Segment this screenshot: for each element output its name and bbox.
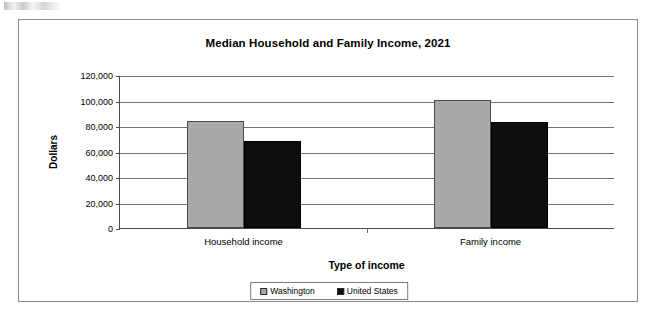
- bar-washington[interactable]: [434, 100, 491, 228]
- legend-item-united-states[interactable]: United States: [337, 286, 398, 296]
- bar-united-states[interactable]: [244, 141, 301, 228]
- plot-wrapper: Dollars 020,00040,00060,00080,000100,000…: [19, 20, 639, 303]
- y-tick-label: 80,000: [85, 122, 113, 132]
- category-label: Family income: [391, 236, 591, 247]
- y-tick-label: 60,000: [85, 148, 113, 158]
- y-tick-label: 100,000: [80, 97, 113, 107]
- y-tick-label: 0: [108, 224, 113, 234]
- y-tick-label: 40,000: [85, 173, 113, 183]
- chart-frame: Median Household and Family Income, 2021…: [18, 19, 638, 302]
- bar-group: Family income: [367, 76, 614, 228]
- x-axis-title: Type of income: [119, 259, 614, 271]
- y-axis-title: Dollars: [48, 135, 59, 169]
- chart-legend: WashingtonUnited States: [250, 282, 408, 300]
- bar-washington[interactable]: [187, 121, 244, 228]
- y-tick-label: 120,000: [80, 71, 113, 81]
- category-tick: [367, 228, 368, 233]
- legend-swatch-icon: [337, 288, 344, 295]
- legend-label: United States: [347, 286, 398, 296]
- legend-item-washington[interactable]: Washington: [260, 286, 315, 296]
- legend-swatch-icon: [260, 288, 267, 295]
- category-label: Household income: [144, 236, 344, 247]
- scan-artifact: [4, 2, 60, 10]
- legend-label: Washington: [270, 286, 315, 296]
- y-tick-mark: [116, 229, 120, 230]
- y-tick-label: 20,000: [85, 199, 113, 209]
- bar-group: Household income: [120, 76, 367, 228]
- plot-area: 020,00040,00060,00080,000100,000120,000 …: [119, 76, 614, 229]
- bar-united-states[interactable]: [491, 122, 548, 228]
